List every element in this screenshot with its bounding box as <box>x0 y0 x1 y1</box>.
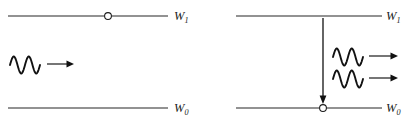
level-label-subscript: 1 <box>184 16 188 25</box>
electron-state-marker-ground <box>320 105 327 112</box>
energy-level-label-lower-right: W0 <box>386 101 401 117</box>
diagram-canvas: W1 W0 W1 W0 <box>0 0 407 127</box>
downward-transition-arrow-head-icon <box>320 96 327 105</box>
incident-photon-wave-icon <box>10 57 40 74</box>
energy-level-label-upper-left: W1 <box>174 9 189 25</box>
emitted-photon-2-wave-icon <box>333 71 363 88</box>
stimulated-emission-diagram: W1 W0 W1 W0 <box>0 0 407 127</box>
emitted-photon-2-arrow-head-icon <box>391 74 399 81</box>
level-label-subscript: 0 <box>184 108 188 117</box>
level-label-subscript: 0 <box>396 108 400 117</box>
emitted-photon-1-wave-icon <box>333 49 363 66</box>
energy-level-label-lower-left: W0 <box>174 101 189 117</box>
energy-level-label-upper-right: W1 <box>386 9 401 25</box>
electron-state-marker-excited <box>105 13 112 20</box>
level-label-subscript: 1 <box>396 16 400 25</box>
left-panel: W1 W0 <box>8 9 189 117</box>
emitted-photon-1-arrow-head-icon <box>391 52 399 59</box>
incident-photon-arrow-head-icon <box>67 60 75 67</box>
right-panel: W1 W0 <box>236 9 401 117</box>
